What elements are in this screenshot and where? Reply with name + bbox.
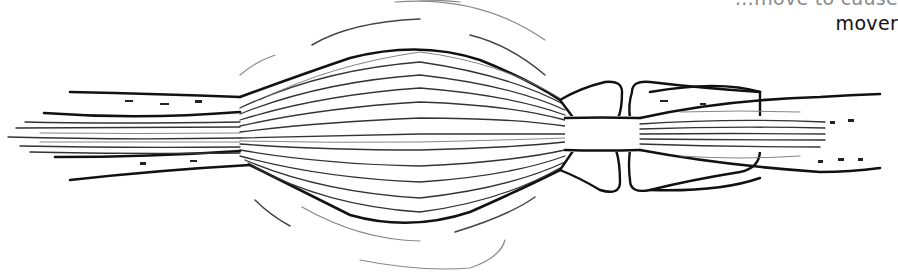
joint-bones (560, 82, 765, 192)
left-tendon (8, 92, 250, 180)
muscle-belly (240, 49, 565, 222)
motion-arcs-top (240, 0, 545, 75)
motion-arcs-bottom (255, 197, 535, 269)
